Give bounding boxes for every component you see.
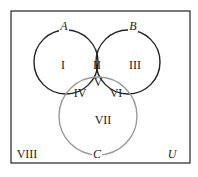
region-label-iii: III [129, 58, 141, 72]
set-circles [34, 30, 160, 155]
region-label-ii: II [93, 58, 101, 72]
universe-label: U [168, 147, 178, 161]
region-label-i: I [61, 58, 65, 72]
set-label-b: B [129, 19, 137, 33]
set-label-c: C [93, 147, 102, 161]
region-label-v: V [94, 75, 103, 89]
region-labels: IIIIIIIVVVIVIIVIII [17, 58, 141, 161]
region-label-vi: VI [110, 86, 123, 100]
venn-svg: ABC IIIIIIIVVVIVIIVIII U [0, 0, 198, 177]
region-label-iv: IV [74, 86, 87, 100]
region-label-viii: VIII [17, 147, 38, 161]
circle-b [96, 30, 160, 94]
set-label-a: A [59, 19, 68, 33]
region-label-vii: VII [95, 113, 112, 127]
circle-a [34, 30, 98, 94]
venn-diagram: ABC IIIIIIIVVVIVIIVIII U [0, 0, 198, 177]
